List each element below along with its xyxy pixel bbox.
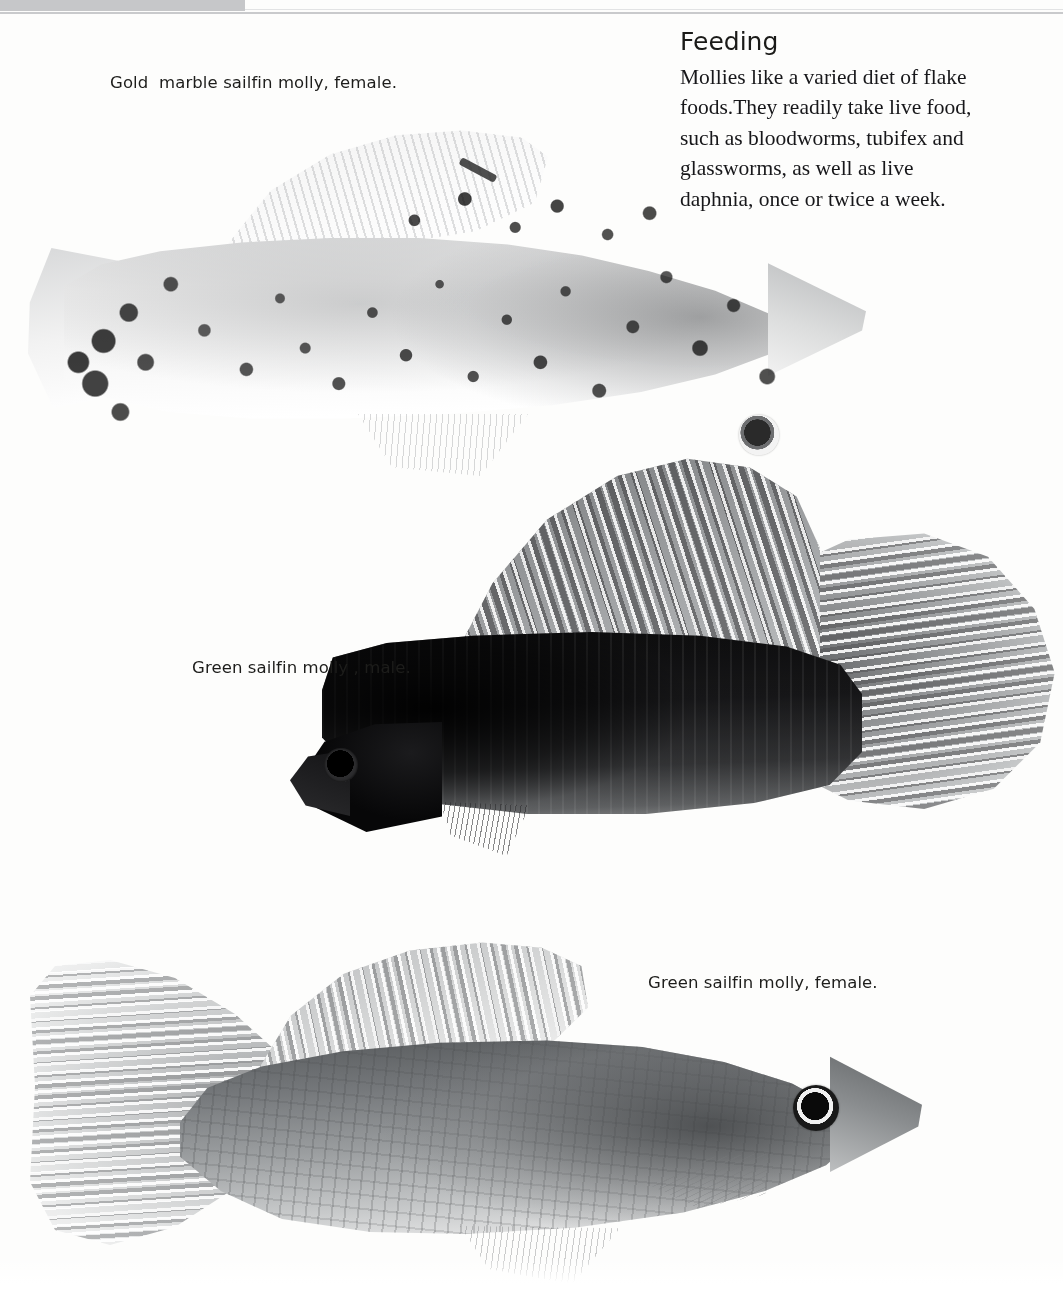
bottom-fade — [0, 1256, 1063, 1290]
caption-green-sailfin-molly-male: Green sailfin molly , male. — [192, 658, 411, 677]
top-rule — [0, 12, 1063, 14]
feeding-heading: Feeding — [680, 28, 1032, 57]
top-hairline-right — [245, 9, 1063, 10]
snout — [768, 256, 866, 376]
eye — [324, 748, 358, 782]
caption-green-sailfin-molly-female: Green sailfin molly, female. — [648, 973, 878, 992]
caption-gold-marble-sailfin-molly-female: Gold marble sailfin molly, female. — [110, 73, 397, 92]
feeding-line: daphnia, once or twice a week. — [680, 184, 1032, 215]
feeding-line: foods.They readily take live food, — [680, 92, 1032, 123]
feeding-line: such as bloodworms, tubifex and — [680, 123, 1032, 154]
feeding-line: Mollies like a varied diet of flake — [680, 62, 1032, 93]
dorsal-fin — [218, 128, 548, 248]
feeding-body: Mollies like a varied diet of flake food… — [680, 62, 1032, 215]
eye — [739, 415, 779, 455]
snout — [830, 1052, 922, 1172]
top-trim-block — [0, 0, 245, 11]
eye — [793, 1085, 839, 1131]
fish-body — [64, 216, 804, 436]
feeding-text-block: Feeding Mollies like a varied diet of fl… — [680, 28, 1032, 214]
fish-body — [180, 1032, 860, 1247]
feeding-line: glassworms, as well as live — [680, 153, 1032, 184]
gonopodium — [440, 802, 530, 856]
